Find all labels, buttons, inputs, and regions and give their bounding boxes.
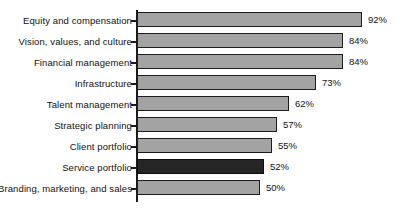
bar-row: Service portfolio52% xyxy=(0,157,400,178)
category-label: Equity and compensation xyxy=(23,10,132,31)
bar-value-label: 92% xyxy=(368,10,387,31)
bar-row: Strategic planning57% xyxy=(0,115,400,136)
bar-value-label: 84% xyxy=(349,52,368,73)
bar-value-label: 57% xyxy=(283,115,302,136)
category-label: Client portfolio xyxy=(70,136,132,157)
bar xyxy=(137,75,316,90)
bar-row: Infrastructure73% xyxy=(0,73,400,94)
bar xyxy=(137,12,362,27)
category-label: Vision, values, and culture xyxy=(19,31,132,52)
category-label: Strategic planning xyxy=(54,115,132,136)
plot-area: Equity and compensation92%Vision, values… xyxy=(0,0,400,217)
bar-value-label: 73% xyxy=(322,73,341,94)
category-label: Talent management xyxy=(47,94,132,115)
bar-highlighted xyxy=(137,159,264,174)
bar-row: Vision, values, and culture84% xyxy=(0,31,400,52)
bar xyxy=(137,96,289,111)
bar xyxy=(137,138,272,153)
bar-chart: Equity and compensation92%Vision, values… xyxy=(0,0,400,217)
bar xyxy=(137,180,260,195)
bar-value-label: 62% xyxy=(295,94,314,115)
bar-value-label: 50% xyxy=(266,178,285,199)
category-label: Infrastructure xyxy=(75,73,132,94)
bar-row: Branding, marketing, and sales50% xyxy=(0,178,400,199)
bar-value-label: 55% xyxy=(278,136,297,157)
bar xyxy=(137,117,277,132)
bar xyxy=(137,33,343,48)
bar-value-label: 52% xyxy=(270,157,289,178)
bar-row: Equity and compensation92% xyxy=(0,10,400,31)
bar-row: Financial management84% xyxy=(0,52,400,73)
category-label: Service portfolio xyxy=(62,157,132,178)
bar-row: Client portfolio55% xyxy=(0,136,400,157)
bar-value-label: 84% xyxy=(349,31,368,52)
category-label: Financial management xyxy=(34,52,132,73)
bar-row: Talent management62% xyxy=(0,94,400,115)
bar xyxy=(137,54,343,69)
category-label: Branding, marketing, and sales xyxy=(0,178,132,199)
